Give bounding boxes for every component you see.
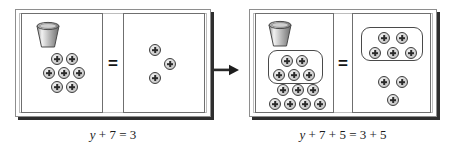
counter-chip	[314, 98, 326, 110]
counter-chip	[149, 72, 161, 84]
model-inner: =	[253, 13, 433, 113]
counter-chip	[277, 84, 289, 96]
counter-chip	[303, 69, 315, 81]
counter-chip	[269, 98, 281, 110]
counter-chip	[149, 44, 161, 56]
counter-chip	[396, 76, 408, 88]
counter-chip	[299, 98, 311, 110]
counter-chip	[43, 67, 55, 79]
counter-chip	[284, 98, 296, 110]
counter-chip	[281, 55, 293, 67]
equation-rest: + 7 = 3	[96, 127, 137, 142]
step-1-left-panel	[21, 13, 103, 113]
equals-sign: =	[338, 55, 348, 72]
bucket-icon	[35, 20, 61, 50]
counter-chip	[66, 53, 78, 65]
counter-chip	[273, 69, 285, 81]
counter-chip	[51, 53, 63, 65]
counter-chip	[307, 84, 319, 96]
balance-model-step-2: =	[249, 9, 437, 117]
equation-rest: + 7 + 5 = 3 + 5	[305, 127, 386, 142]
bucket-icon	[267, 19, 293, 49]
equals-sign: =	[108, 55, 118, 72]
counter-chip	[292, 84, 304, 96]
figure-canvas: = y + 7 = 3	[0, 0, 452, 149]
counter-chip	[296, 55, 308, 67]
counter-chip	[288, 69, 300, 81]
counter-chip	[396, 32, 408, 44]
counter-chip	[164, 58, 176, 70]
balance-model-step-1: =	[15, 9, 211, 117]
step-1-right-panel	[123, 13, 205, 113]
counter-chip	[378, 76, 390, 88]
step-2-equals-gap: =	[334, 14, 352, 112]
right-arrow-icon	[214, 62, 240, 74]
step-2-right-panel	[352, 13, 431, 113]
counter-chip	[51, 81, 63, 93]
equation-step-1: y + 7 = 3	[15, 128, 211, 141]
equation-step-2: y + 7 + 5 = 3 + 5	[249, 128, 437, 141]
step-1-equals-gap: =	[103, 14, 123, 112]
model-inner: =	[19, 13, 207, 113]
counter-chip	[73, 67, 85, 79]
counter-chip	[58, 67, 70, 79]
counter-chip	[387, 47, 399, 59]
counter-chip	[387, 94, 399, 106]
step-2-left-panel	[255, 13, 334, 113]
counter-chip	[405, 47, 417, 59]
counter-chip	[378, 32, 390, 44]
counter-chip	[369, 47, 381, 59]
counter-chip	[66, 81, 78, 93]
